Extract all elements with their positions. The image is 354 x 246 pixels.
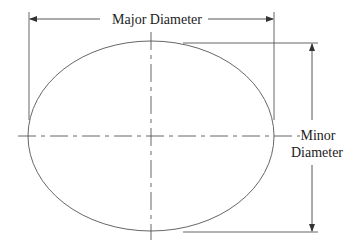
diagram-graphics: [0, 0, 354, 246]
minor-diameter-label-line1: Minor: [288, 128, 348, 144]
ellipse-diagram: Major Diameter Minor Diameter: [0, 0, 354, 246]
major-diameter-label: Major Diameter: [110, 12, 204, 28]
minor-diameter-label-line2: Diameter: [284, 145, 350, 161]
